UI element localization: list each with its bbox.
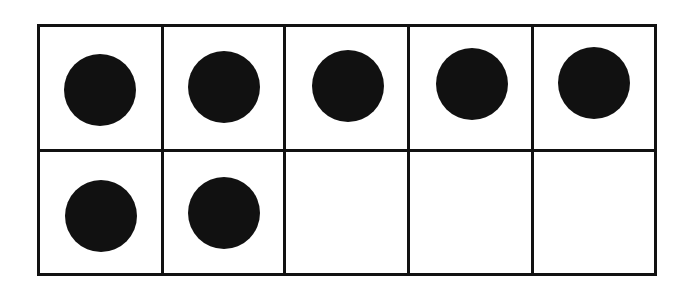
figure-canvas <box>0 0 698 296</box>
ten-frame-cell-10[interactable] <box>534 152 654 274</box>
ten-frame-bottom-row <box>40 152 654 274</box>
ten-frame-cell-6[interactable] <box>40 152 164 274</box>
empty-cell-placeholder <box>435 176 507 248</box>
ten-frame-cell-2[interactable] <box>164 27 286 149</box>
ten-frame-cell-4[interactable] <box>410 27 534 149</box>
empty-cell-placeholder <box>558 176 630 248</box>
ten-frame-top-row <box>40 27 654 152</box>
counter-dot-icon <box>188 51 260 123</box>
counter-dot-icon <box>558 47 630 119</box>
ten-frame-cell-9[interactable] <box>410 152 534 274</box>
counter-dot-icon <box>64 54 136 126</box>
empty-cell-placeholder <box>311 176 383 248</box>
counter-dot-icon <box>65 180 137 252</box>
ten-frame-cell-8[interactable] <box>286 152 410 274</box>
ten-frame-cell-3[interactable] <box>286 27 410 149</box>
ten-frame-cell-5[interactable] <box>534 27 654 149</box>
counter-dot-icon <box>436 48 508 120</box>
ten-frame-cell-7[interactable] <box>164 152 286 274</box>
ten-frame-grid <box>37 24 657 276</box>
ten-frame-cell-1[interactable] <box>40 27 164 149</box>
counter-dot-icon <box>312 50 384 122</box>
counter-dot-icon <box>188 177 260 249</box>
